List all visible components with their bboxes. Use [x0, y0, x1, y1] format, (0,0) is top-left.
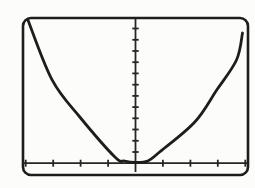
graph-svg — [0, 0, 255, 188]
calculator-graph-figure — [0, 0, 255, 188]
y-axis — [132, 19, 138, 172]
